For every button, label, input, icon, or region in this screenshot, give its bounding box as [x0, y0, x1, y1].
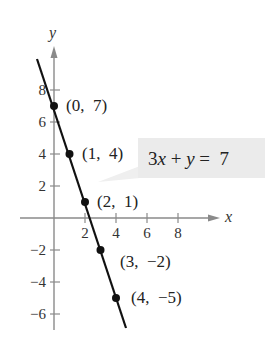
- point-3-neg2: [97, 246, 105, 254]
- linear-equation-graph: 3x + y = 7 y x 8 6 4 2 −2 −4 −6 2 4 6: [0, 0, 276, 354]
- y-axis-arrow-icon: [51, 46, 58, 58]
- point-4-neg5: [112, 294, 120, 302]
- svg-text:−4: −4: [30, 274, 46, 290]
- x-axis-arrow-icon: [208, 215, 220, 222]
- point-label: (1, 4): [82, 144, 123, 163]
- svg-text:2: 2: [81, 225, 89, 241]
- svg-text:2: 2: [39, 178, 47, 194]
- svg-text:6: 6: [39, 114, 47, 130]
- y-axis-label: y: [47, 24, 57, 42]
- point-label: (3, −2): [120, 252, 171, 271]
- point-label: (0, 7): [66, 96, 107, 115]
- svg-text:−6: −6: [30, 306, 46, 322]
- svg-text:−2: −2: [30, 242, 46, 258]
- y-tick-labels: 8 6 4 2 −2 −4 −6: [30, 82, 46, 322]
- point-1-4: [66, 150, 74, 158]
- svg-text:4: 4: [112, 225, 120, 241]
- point-label: (4, −5): [131, 288, 182, 307]
- callout-pointer: [98, 166, 140, 182]
- point-label: (2, 1): [97, 192, 138, 211]
- point-0-7: [50, 102, 58, 110]
- svg-text:4: 4: [39, 146, 47, 162]
- point-2-1: [81, 198, 89, 206]
- svg-text:8: 8: [174, 225, 182, 241]
- equation-label: 3x + y = 7: [148, 148, 229, 169]
- x-axis-label: x: [224, 208, 232, 225]
- svg-text:6: 6: [143, 225, 151, 241]
